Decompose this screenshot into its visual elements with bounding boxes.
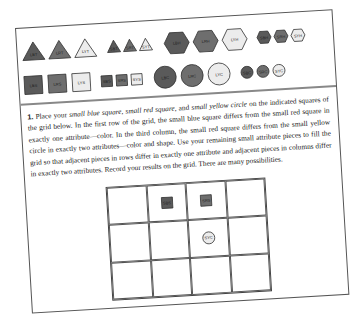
piece-label: SRH (277, 33, 286, 38)
piece-sbs: SBS (100, 74, 114, 88)
piece-label: LRT (56, 50, 64, 55)
piece-sbc: SBC (240, 65, 255, 80)
grid-cell-r3-c2[interactable] (150, 258, 192, 298)
grid-cell-r1-c3[interactable]: SRS (186, 181, 228, 221)
piece-syc: SYC (272, 63, 287, 78)
piece-label: LBT (30, 52, 38, 57)
piece-lrt: LRT (47, 39, 72, 60)
piece-srs: SRS (115, 73, 129, 87)
piece-label: SRT (126, 45, 134, 50)
grid-cell-r1-c4[interactable] (225, 178, 267, 218)
grid-cell-r2-c4[interactable] (227, 216, 269, 256)
piece-label: LBC (161, 74, 169, 79)
piece-lbc: LBC (152, 64, 177, 89)
piece-lbt: LBT (21, 40, 46, 61)
grid-cell-r2-c3[interactable]: SYC (188, 218, 230, 258)
piece-lyh: LYH (220, 27, 248, 52)
piece-label: LYT (82, 49, 89, 54)
piece-srs: SRS (199, 194, 213, 208)
piece-label: SYT (142, 44, 150, 49)
grid-cell-r3-c4[interactable] (229, 253, 271, 293)
piece-label: SRS (117, 77, 126, 82)
exercise-number: 1. (27, 112, 34, 121)
piece-sys: SYS (130, 72, 144, 86)
piece-label: SYS (133, 76, 141, 81)
piece-syt: SYT (138, 37, 154, 52)
piece-label: LBS (29, 82, 37, 87)
piece-srt: SRT (122, 38, 138, 53)
piece-lbs: LBS (23, 74, 44, 95)
piece-label: SYC (275, 68, 284, 73)
piece-sbt: SBT (106, 39, 122, 54)
piece-syc: SYC (201, 230, 216, 245)
grid-cell-r2-c1[interactable] (109, 223, 151, 263)
piece-lrc: LRC (179, 63, 204, 88)
piece-label: LBH (173, 40, 181, 45)
piece-label: SYH (294, 32, 303, 37)
exercise-1-text: 1. Place your small blue square, small r… (27, 94, 333, 180)
piece-label: LRC (188, 73, 196, 78)
piece-label: SBT (110, 46, 118, 51)
piece-lyt: LYT (73, 37, 98, 58)
grid-cell-r3-c1[interactable] (111, 260, 153, 300)
piece-label: SBS (163, 200, 171, 205)
piece-syh: SYH (290, 28, 307, 43)
piece-label: SBC (243, 70, 252, 75)
piece-label: LYS (78, 79, 86, 84)
term-small-blue-square: small blue square (69, 107, 122, 119)
piece-lyc: LYC (206, 61, 231, 86)
piece-label: SYC (204, 235, 213, 240)
term-small-yellow-circle: small yellow circle (191, 99, 247, 111)
piece-label: LYC (215, 71, 223, 76)
piece-src: SRC (256, 64, 271, 79)
piece-sbs: SBS (160, 196, 174, 210)
piece-sbh: SBH (256, 30, 273, 45)
piece-lrs: LRS (47, 73, 68, 94)
grid-cell-r1-c1[interactable] (107, 186, 149, 226)
worksheet-page: LBTLRTLYTSBTSRTSYTLBHLRHLYHSBHSRHSYH LBS… (15, 9, 349, 313)
piece-label: SBH (260, 35, 269, 40)
piece-srh: SRH (273, 29, 290, 44)
term-small-red-square: small red square (125, 104, 175, 116)
piece-lrh: LRH (191, 28, 219, 53)
piece-lbh: LBH (162, 30, 190, 55)
grid-cell-r2-c2[interactable] (148, 220, 190, 260)
piece-label: SRS (202, 198, 211, 203)
grid-cell-r3-c3[interactable] (190, 255, 232, 295)
piece-label: LYH (231, 36, 239, 41)
piece-label: LRH (201, 38, 209, 43)
piece-label: SBS (103, 78, 111, 83)
attribute-pieces-panel: LBTLRTLYTSBTSRTSYTLBHLRHLYHSBHSRHSYH LBS… (16, 10, 336, 106)
answer-grid: SBSSRSSYC (106, 177, 272, 300)
piece-label: SRC (259, 69, 268, 74)
grid-cell-r1-c2[interactable]: SBS (146, 183, 188, 223)
piece-lys: LYS (71, 72, 92, 93)
piece-label: LRS (53, 81, 61, 86)
